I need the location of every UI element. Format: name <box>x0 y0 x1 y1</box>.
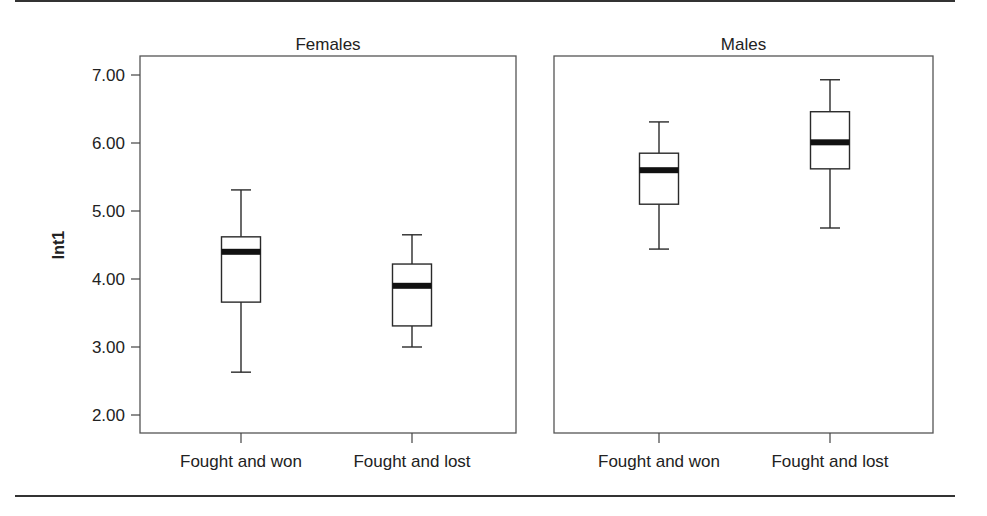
y-tick-label: 3.00 <box>92 338 125 357</box>
y-tick-label: 7.00 <box>92 66 125 85</box>
panel-title: Females <box>295 35 360 54</box>
x-tick-label: Fought and won <box>598 452 720 471</box>
box-females-fought-and-won <box>222 237 261 302</box>
x-tick-label: Fought and lost <box>771 452 888 471</box>
x-tick-label: Fought and won <box>180 452 302 471</box>
box-females-fought-and-lost <box>393 264 432 326</box>
y-tick-label: 6.00 <box>92 134 125 153</box>
median-females-fought-and-won <box>222 249 261 255</box>
panel-title: Males <box>721 35 766 54</box>
panel-frame-females <box>140 56 516 433</box>
y-tick-label: 2.00 <box>92 406 125 425</box>
box-males-fought-and-won <box>640 153 679 204</box>
median-males-fought-and-lost <box>811 139 850 145</box>
panel-frame-males <box>554 56 933 433</box>
y-tick-label: 5.00 <box>92 202 125 221</box>
y-tick-label: 4.00 <box>92 270 125 289</box>
y-axis-label: Int1 <box>50 231 67 260</box>
median-females-fought-and-lost <box>393 283 432 289</box>
x-tick-label: Fought and lost <box>353 452 470 471</box>
median-males-fought-and-won <box>640 167 679 173</box>
boxplot-chart: FemalesFought and wonFought and lostMale… <box>0 0 987 516</box>
